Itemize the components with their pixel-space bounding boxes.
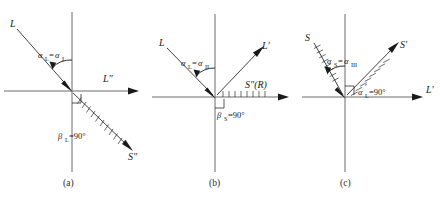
alpha-L-base-a: α <box>38 50 43 60</box>
alpha-III-subscript-c: III <box>351 61 357 68</box>
angle-label-alpha-L-I-a: α L = α I <box>38 50 64 62</box>
alpha-I-base-a: α <box>55 50 60 60</box>
ray-label-L-double-prime-a: L″ <box>102 73 114 84</box>
alpha-II-base-b: α <box>198 58 203 68</box>
angle-label-alpha-L-prime-c: α L ′ =90° <box>358 82 386 99</box>
panel-caption-c: (c) <box>340 178 351 188</box>
alpha-L-prime-base-c: α <box>358 87 363 97</box>
angle-label-beta-S-b: β S =90° <box>216 110 245 122</box>
arrowhead-S-double-prime-R-b <box>278 94 289 101</box>
alpha-S-base-c: α <box>327 56 332 66</box>
beta-L-value-a: =90° <box>69 131 86 141</box>
beta-L-base-a: β <box>57 131 63 141</box>
ray-label-S-double-prime-a: S″ <box>128 151 138 162</box>
arrowhead-L-double-prime-a <box>128 88 139 95</box>
panel-c: S S′ L′ α S = α III α L ′ =90° (c) <box>300 0 440 199</box>
angle-label-alpha-L-II-b: α L = α II <box>181 58 209 70</box>
panel-caption-a: (a) <box>63 178 74 188</box>
panel-b-diagram: L L′ S″(R) α L = α II β S =90° <box>150 0 300 199</box>
ray-label-L-b: L <box>158 37 165 48</box>
incident-ray-L-b <box>167 48 213 95</box>
alpha-II-subscript-b: II <box>205 63 209 70</box>
hatch-marks-S-double-prime-R-b <box>223 91 265 97</box>
panel-a: L L″ S″ α L = α I β L =90° (a) <box>0 0 150 199</box>
alpha-equals-a: = <box>49 50 54 60</box>
right-angle-marker-c <box>345 86 354 95</box>
panel-a-diagram: L L″ S″ α L = α I β L =90° <box>0 0 150 199</box>
angle-label-alpha-S-III-c: α S = α III <box>327 56 357 68</box>
panel-b: L L′ S″(R) α L = α II β S =90° (b) <box>150 0 300 199</box>
ray-label-L-prime-c: L′ <box>425 84 435 95</box>
ray-label-S-prime-c: S′ <box>400 39 408 50</box>
alpha-equals-b: = <box>192 58 197 68</box>
alpha-equals-c: = <box>338 56 343 66</box>
alpha-III-base-c: α <box>344 56 349 66</box>
arrowhead-incident-L-a <box>61 81 72 93</box>
right-angle-marker-b <box>215 99 224 108</box>
beta-S-base-b: β <box>216 110 222 120</box>
panel-c-diagram: S S′ L′ α S = α III α L ′ =90° <box>300 0 440 199</box>
arrowhead-L-prime-c <box>412 94 423 101</box>
ray-label-L-a: L <box>9 18 16 29</box>
ray-label-L-prime-b: L′ <box>261 40 271 51</box>
panel-caption-b: (b) <box>209 178 220 188</box>
ray-label-S-double-prime-R-b: S″(R) <box>245 79 268 91</box>
beta-S-value-b: =90° <box>228 110 245 120</box>
ray-geometry-figure: L L″ S″ α L = α I β L =90° (a) <box>0 0 440 199</box>
alpha-L-prime-mark-c: ′ <box>365 82 367 92</box>
ray-label-S-c: S <box>305 32 310 43</box>
alpha-L-prime-value-c: =90° <box>369 87 386 97</box>
alpha-I-subscript-a: I <box>62 55 64 62</box>
angle-label-beta-L-a: β L =90° <box>57 131 86 143</box>
right-angle-marker-a <box>72 94 81 103</box>
alpha-L-base-b: α <box>181 58 186 68</box>
